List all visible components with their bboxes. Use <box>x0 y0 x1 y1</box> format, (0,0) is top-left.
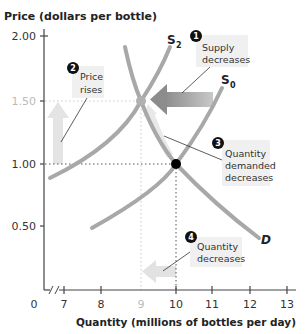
y-tick-label: 1.00 <box>12 158 37 171</box>
curve-label-d: D <box>261 233 271 247</box>
original-equilibrium-point <box>171 159 181 169</box>
supply-shift-arrow <box>150 84 213 115</box>
supply-decrease-chart: Price (dollars per bottle) <box>0 0 305 334</box>
new-equilibrium-point <box>136 96 146 106</box>
y-tick-label: 0.50 <box>12 220 37 233</box>
svg-text:2: 2 <box>176 41 182 50</box>
y-axis-title: Price (dollars per bottle) <box>4 10 157 23</box>
svg-text:Price: Price <box>80 71 103 82</box>
svg-text:Quantity: Quantity <box>197 241 238 252</box>
svg-text:Quantity: Quantity <box>225 148 266 159</box>
x-tick-label: 9 <box>138 298 145 311</box>
svg-text:decreases: decreases <box>225 172 273 183</box>
quantity-decreases-arrow <box>142 260 176 283</box>
price-rises-arrow <box>47 102 69 164</box>
x-tick-label: 10 <box>169 298 183 311</box>
x-tick-label: 0 <box>31 298 38 311</box>
x-tick-label: 7 <box>61 298 68 311</box>
y-tick-label: 1.50 <box>12 95 37 108</box>
svg-text:3: 3 <box>215 139 221 148</box>
svg-text:0: 0 <box>230 81 236 90</box>
svg-text:rises: rises <box>80 84 102 95</box>
x-axis-title: Quantity (millions of bottles per day) <box>76 316 296 328</box>
svg-text:decreases: decreases <box>202 54 250 65</box>
svg-text:demanded: demanded <box>225 160 276 171</box>
x-tick-label: 11 <box>205 298 219 311</box>
x-tick-label: 8 <box>98 298 105 311</box>
svg-text:decreases: decreases <box>197 253 245 264</box>
svg-text:Supply: Supply <box>202 42 235 53</box>
svg-text:S: S <box>221 73 230 87</box>
svg-text:1: 1 <box>193 32 199 41</box>
supply-curve-s0 <box>92 88 222 228</box>
x-tick-label: 13 <box>280 298 294 311</box>
svg-text:S: S <box>167 33 176 47</box>
svg-text:4: 4 <box>188 233 194 242</box>
x-tick-label: 12 <box>243 298 257 311</box>
y-tick-label: 2.00 <box>12 30 37 43</box>
chart-canvas: Price (dollars per bottle) <box>0 0 305 334</box>
svg-text:2: 2 <box>70 64 76 73</box>
